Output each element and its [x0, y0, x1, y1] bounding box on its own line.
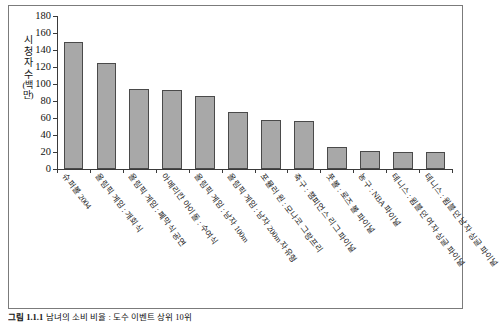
- y-axis-tick-mark: [53, 16, 57, 17]
- bar: [129, 89, 149, 169]
- y-axis-tick-mark: [53, 33, 57, 34]
- x-axis-category-label: 슈퍼볼 2004: [61, 172, 93, 211]
- y-axis-line: [57, 16, 58, 169]
- y-axis-tick-label: 40: [41, 130, 52, 141]
- y-axis-tick-mark: [53, 135, 57, 136]
- x-axis-category-labels: 슈퍼볼 2004올림픽 게임 : 개회식올림픽 게임 : 폐막식 공연아메리칸 …: [57, 172, 477, 312]
- bar: [393, 152, 413, 169]
- caption-text: 남녀의 소비 비율 : 도수 이벤트 상위 10위: [46, 312, 192, 322]
- bar: [228, 112, 248, 169]
- y-axis-tick-label: 120: [35, 62, 51, 73]
- x-axis-category-label: 아메리칸 아이돌 : 수여식: [160, 172, 220, 247]
- y-axis-tick-mark: [53, 101, 57, 102]
- y-axis-tick-mark: [53, 50, 57, 51]
- bar: [162, 90, 182, 169]
- bar: [426, 152, 446, 169]
- y-axis-tick-mark: [53, 152, 57, 153]
- y-axis-tick-mark: [53, 67, 57, 68]
- bar: [195, 96, 215, 169]
- bar: [97, 63, 117, 169]
- y-axis-tick-label: 20: [41, 147, 52, 158]
- figure-frame: 시 청 자 수 (백만) 020406080100120140160180 슈퍼…: [8, 5, 463, 309]
- x-axis-category-label: 테니스 : 윔블던 남자 싱글 파이널: [423, 172, 499, 269]
- plot-area: 020406080100120140160180: [57, 16, 452, 169]
- caption-number: 그림 1.1.1: [8, 312, 43, 322]
- bar: [360, 151, 380, 169]
- bar: [261, 120, 281, 169]
- y-axis-tick-mark: [53, 84, 57, 85]
- bar: [294, 121, 314, 169]
- y-axis-tick-label: 180: [35, 11, 51, 22]
- x-axis-category-label: 축구 : 챔피언스 리그 파이널: [291, 172, 356, 255]
- y-axis-tick-label: 100: [35, 79, 51, 90]
- x-axis-category-label: 포뮬러 원 : 모나코 그랑프리: [258, 172, 323, 255]
- y-axis-tick-label: 160: [35, 28, 51, 39]
- figure-caption: 그림 1.1.1남녀의 소비 비율 : 도수 이벤트 상위 10위: [8, 312, 468, 322]
- y-axis-tick-label: 0: [46, 164, 51, 175]
- bar: [64, 42, 84, 170]
- bar: [327, 147, 347, 169]
- y-axis-tick-label: 140: [35, 45, 51, 56]
- y-axis-tick-mark: [53, 118, 57, 119]
- y-axis-tick-label: 60: [41, 113, 52, 124]
- y-axis-tick-label: 80: [41, 96, 52, 107]
- x-axis-category-label: 올림픽 게임 : 폐막식 공연: [127, 172, 188, 248]
- x-axis-category-label: 올림픽 게임 : 남자 200m 자유형: [226, 172, 299, 265]
